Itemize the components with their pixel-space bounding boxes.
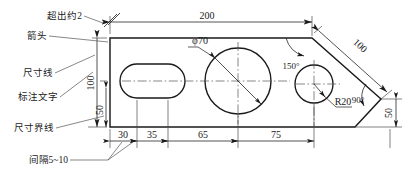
- value-angle-150: 150°: [282, 61, 300, 71]
- value-50-right: 50: [383, 108, 394, 118]
- value-r20: R20: [335, 96, 352, 107]
- leader-spacing: [70, 142, 122, 160]
- label-dimension-line: 尺寸线: [23, 67, 53, 78]
- label-spacing: 间隔5~10: [29, 154, 69, 165]
- leader-dimline: [55, 55, 95, 73]
- technical-drawing-svg: 超出约2 箭头 尺寸线 标注文字 尺寸界线 间隔5~10 200 100 50 …: [0, 0, 416, 172]
- value-200: 200: [200, 10, 215, 21]
- label-dimension-text: 标注文字: [18, 91, 58, 102]
- value-30: 30: [118, 129, 128, 140]
- leader-arrowhead: [49, 36, 108, 42]
- dimension-lines: [97, 22, 396, 141]
- center-lines: [122, 42, 340, 127]
- label-overshoot: 超出约2: [47, 10, 82, 21]
- value-35: 35: [147, 129, 157, 140]
- extension-lines: [88, 16, 402, 148]
- value-50-left: 50: [94, 105, 105, 115]
- overshoot-tick-icon: [104, 13, 120, 27]
- label-extension-line: 尺寸界线: [14, 122, 54, 133]
- dimension-values: 200 100 50 30 35 65 75 100 50 150° 90° φ…: [85, 10, 394, 140]
- drawing-canvas: 超出约2 箭头 尺寸线 标注文字 尺寸界线 间隔5~10 200 100 50 …: [0, 0, 416, 172]
- value-65: 65: [198, 129, 208, 140]
- leader-overshoot: [84, 16, 103, 23]
- label-arrowhead: 箭头: [27, 30, 47, 41]
- value-phi70: φ70: [192, 35, 208, 46]
- value-100-left: 100: [85, 76, 96, 91]
- dimline-slant-100: [319, 31, 387, 92]
- value-75: 75: [271, 129, 281, 140]
- arc-150: [286, 38, 304, 56]
- value-slant-100: 100: [351, 36, 370, 54]
- value-angle-90: 90°: [352, 95, 365, 105]
